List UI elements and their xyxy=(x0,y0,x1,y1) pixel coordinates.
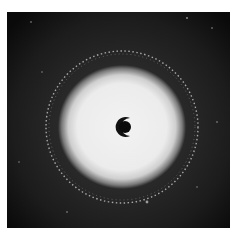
diffraction-image xyxy=(7,12,230,228)
beam-stop xyxy=(7,12,230,228)
